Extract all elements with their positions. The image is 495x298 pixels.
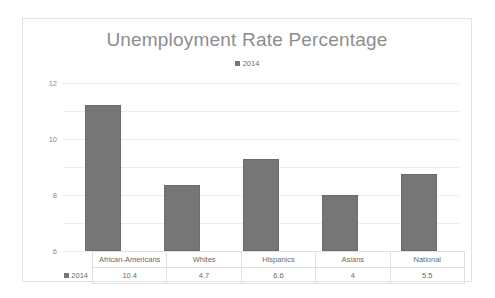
table-category-cell: Asians [316,252,390,268]
bar[interactable] [401,174,437,251]
plot-area: 121086420 [63,83,459,251]
table-value-cell: 10.4 [93,268,167,284]
table-value-cell: 5.5 [390,268,464,284]
bar-slot [380,83,459,251]
table-corner-empty [31,252,93,268]
table-category-cell: National [390,252,464,268]
table-row-categories: African-AmericansWhitesHispanicsAsiansNa… [31,252,465,268]
table-series-legend-cell: 2014 [31,268,93,284]
bar[interactable] [85,105,121,251]
y-axis-tick-label: 8 [53,191,57,200]
bars-layer [63,83,459,251]
bar-slot [221,83,300,251]
chart-title: Unemployment Rate Percentage [23,29,471,51]
bar[interactable] [322,195,358,251]
legend-item-label: 2014 [243,59,260,68]
legend-square-marker-icon [235,61,240,66]
table-category-cell: Whites [167,252,241,268]
table-series-label: 2014 [71,271,88,280]
table-row-values: 2014 10.44.76.645.5 [31,268,465,284]
bar-slot [142,83,221,251]
table-category-cell: Hispanics [241,252,315,268]
y-axis-tick-label: 10 [49,135,57,144]
table-value-cell: 4.7 [167,268,241,284]
bar-slot [63,83,142,251]
table-category-cell: African-Americans [93,252,167,268]
chart-frame: Unemployment Rate Percentage 2014 121086… [22,18,472,282]
table-value-cell: 4 [316,268,390,284]
data-table: African-AmericansWhitesHispanicsAsiansNa… [31,251,465,284]
y-axis-tick-label: 12 [49,79,57,88]
table-value-cell: 6.6 [241,268,315,284]
table-legend-square-marker-icon [64,273,69,278]
bar[interactable] [243,159,279,251]
bar[interactable] [164,185,200,251]
chart-legend: 2014 [23,59,471,68]
bar-slot [301,83,380,251]
